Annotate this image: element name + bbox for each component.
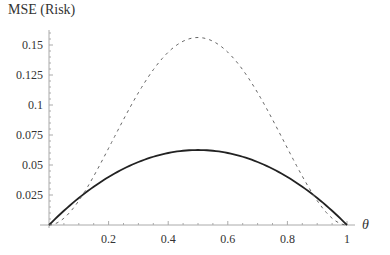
x-axis-label: θ (362, 217, 369, 232)
y-axis-label: MSE (Risk) (8, 2, 76, 18)
y-tick-label: 0.15 (22, 38, 43, 52)
x-tick-label: 1 (344, 232, 350, 246)
y-tick-label: 0.075 (16, 128, 43, 142)
axes (40, 30, 355, 228)
y-tick-label: 0.1 (28, 98, 43, 112)
series (49, 38, 347, 226)
series-dashed (49, 38, 347, 226)
y-tick-label: 0.025 (16, 188, 43, 202)
series-solid (49, 150, 347, 225)
ticks: 0.20.40.60.810.0250.050.0750.10.1250.15 (16, 33, 350, 246)
x-tick-label: 0.6 (220, 232, 235, 246)
y-tick-label: 0.125 (16, 68, 43, 82)
mse-risk-chart: 0.20.40.60.810.0250.050.0750.10.1250.15 … (0, 0, 390, 255)
x-tick-label: 0.2 (101, 232, 116, 246)
x-tick-label: 0.4 (161, 232, 176, 246)
y-tick-label: 0.05 (22, 158, 43, 172)
x-tick-label: 0.8 (280, 232, 295, 246)
